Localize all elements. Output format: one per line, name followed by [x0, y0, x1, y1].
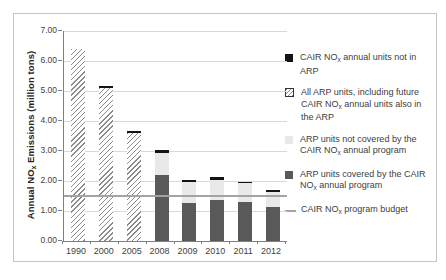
gridline-6 [64, 61, 287, 62]
bar-segment-black-2009 [182, 180, 196, 182]
light-swatch-icon [285, 136, 293, 144]
y-tick-mark [58, 120, 62, 121]
x-tick-mark [62, 241, 63, 244]
y-tick-label: 7.00 [27, 25, 57, 36]
gridline-7 [64, 31, 287, 32]
gridline-3 [64, 151, 287, 152]
bar-segment-black-2010 [210, 177, 224, 179]
x-tick-label: 2012 [255, 246, 287, 257]
legend-item-hatch: All ARP units, including future CAIR NOx… [285, 87, 435, 124]
legend-label: All ARP units, including future CAIR NOx… [301, 87, 435, 124]
x-tick-mark [174, 241, 175, 244]
legend: CAIR NOx annual units not in ARPAll ARP … [285, 52, 435, 217]
y-tick-mark [58, 90, 62, 91]
x-tick-mark [90, 241, 91, 244]
bar-segment-dark-2011 [238, 202, 252, 241]
bar-segment-dark-2012 [266, 207, 280, 241]
bar-segment-hatch-2000 [99, 88, 113, 241]
y-tick-label: 3.00 [27, 145, 57, 156]
bar-segment-black-2008 [155, 150, 169, 153]
y-tick-mark [58, 30, 62, 31]
bar-segment-black-2005 [127, 131, 141, 133]
gridline-2 [64, 181, 287, 182]
y-tick-label: 1.00 [27, 205, 57, 216]
legend-item-black: CAIR NOx annual units not in ARP [285, 52, 435, 77]
bar-segment-black-2011 [238, 182, 252, 184]
x-tick-mark [257, 241, 258, 244]
subscript-text: x [30, 166, 37, 170]
bar-segment-hatch-1990 [71, 49, 85, 241]
budget-line [64, 195, 287, 197]
bar-segment-dark-2010 [210, 200, 224, 241]
y-tick-label: 6.00 [27, 55, 57, 66]
gridline-1 [64, 211, 287, 212]
chart-stage: Annual NOx Emissions (million tons) 0.00… [0, 0, 446, 280]
legend-item-line: CAIR NOx program budget [285, 204, 435, 218]
legend-item-dark: ARP units covered by the CAIR NOx annual… [285, 169, 435, 194]
y-tick-mark [58, 180, 62, 181]
legend-label: ARP units covered by the CAIR NOx annual… [300, 169, 435, 194]
dark-swatch-icon [285, 171, 293, 179]
subscript-text: x [338, 56, 341, 63]
legend-label: ARP units not covered by the CAIR NOx an… [300, 134, 435, 159]
x-tick-mark [118, 241, 119, 244]
y-tick-label: 0.00 [27, 235, 57, 246]
x-tick-mark [201, 241, 202, 244]
bar-segment-dark-2009 [182, 203, 196, 241]
x-tick-mark [146, 241, 147, 244]
legend-label: CAIR NOx annual units not in ARP [300, 52, 435, 77]
subscript-text: x [314, 184, 317, 191]
bar-segment-light-2011 [238, 183, 252, 202]
bar-segment-light-2008 [155, 153, 169, 176]
gridline-4 [64, 121, 287, 122]
x-tick-mark [285, 241, 286, 244]
x-tick-mark [229, 241, 230, 244]
y-tick-mark [58, 60, 62, 61]
y-tick-label: 2.00 [27, 175, 57, 186]
y-tick-label: 4.00 [27, 115, 57, 126]
gridline-5 [64, 91, 287, 92]
bar-segment-hatch-2005 [127, 133, 141, 241]
bar-segment-dark-2008 [155, 175, 169, 241]
y-tick-mark [58, 150, 62, 151]
bar-segment-black-2000 [99, 86, 113, 88]
plot-area [63, 31, 287, 242]
y-tick-mark [58, 210, 62, 211]
bar-segment-black-2012 [266, 190, 280, 192]
y-axis-title: Annual NOx Emissions (million tons) [25, 51, 37, 220]
legend-label: CAIR NOx program budget [301, 204, 408, 218]
y-tick-label: 5.00 [27, 85, 57, 96]
subscript-text: x [339, 208, 342, 215]
hatch-swatch-icon [285, 88, 294, 97]
subscript-text: x [338, 149, 341, 156]
bar-segment-light-2009 [182, 182, 196, 203]
subscript-text: x [339, 103, 342, 110]
legend-item-light: ARP units not covered by the CAIR NOx an… [285, 134, 435, 159]
